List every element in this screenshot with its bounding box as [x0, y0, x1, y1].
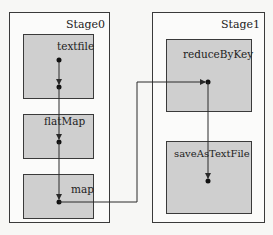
- node-dot-saveastextfile: [206, 179, 211, 184]
- node-dot-textfile-top: [57, 58, 62, 63]
- edges-layer: [0, 0, 273, 235]
- edge-map-reducebykey: [59, 82, 205, 202]
